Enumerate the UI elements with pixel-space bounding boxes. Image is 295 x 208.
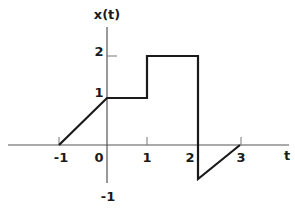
signal-plot: x(t) t 2 1 -1 -1 0 1 2 3: [0, 0, 295, 208]
x-tick-label-3: 3: [236, 150, 245, 165]
x-tick-label-neg1: -1: [54, 150, 68, 165]
y-tick-label-2: 2: [94, 44, 103, 59]
y-axis-label: x(t): [94, 7, 120, 22]
y-tick-label-1: 1: [94, 85, 103, 100]
x-tick-label-1: 1: [142, 150, 151, 165]
t-axis-label: t: [284, 148, 290, 163]
x-tick-label-0: 0: [94, 150, 103, 165]
x-tick-label-2: 2: [185, 150, 194, 165]
y-tick-label-neg1: -1: [101, 189, 115, 204]
